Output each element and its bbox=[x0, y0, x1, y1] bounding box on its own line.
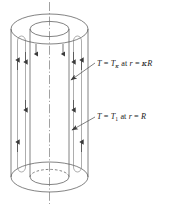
label-one-at: at bbox=[118, 112, 128, 121]
label-kappa-eq2: = bbox=[133, 59, 142, 68]
label-one-eq1: = bbox=[102, 112, 111, 121]
cylinder-diagram-canvas bbox=[0, 0, 181, 206]
leader-inner-wall bbox=[71, 63, 95, 80]
label-inner-wall-temperature: T = Tκ at r = κR bbox=[97, 58, 152, 68]
label-kappa-subscript: κ bbox=[115, 63, 119, 69]
label-kappa-at: at bbox=[119, 59, 129, 68]
label-kappa-eq1: = bbox=[102, 59, 111, 68]
label-one-subscript: 1 bbox=[115, 116, 118, 122]
leader-lines bbox=[71, 63, 95, 130]
label-outer-wall-temperature: T = T1 at r = R bbox=[97, 112, 146, 121]
leader-outer-wall bbox=[72, 117, 95, 130]
label-one-radius-R: R bbox=[141, 112, 146, 121]
label-one-eq2: = bbox=[132, 112, 141, 121]
label-kappa-radius-R: R bbox=[147, 59, 152, 68]
annular-cylinder-heat-transfer-figure: T = Tκ at r = κR T = T1 at r = R bbox=[0, 0, 181, 206]
